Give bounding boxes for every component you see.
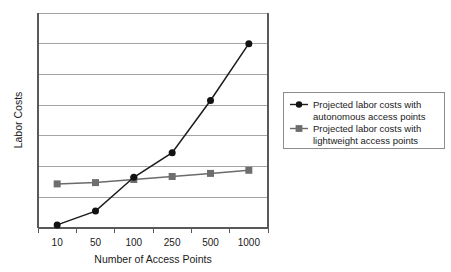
- chart-figure: 10 50 100 250 500 1000 Number of Access …: [0, 0, 451, 272]
- x-tick-label-2: 100: [125, 237, 142, 248]
- plot-area-background: [38, 13, 268, 228]
- series-autonomous-marker-2: [130, 174, 137, 181]
- legend-circle-marker-icon: [296, 101, 302, 107]
- chart-legend: Projected labor costs with autonomous ac…: [284, 93, 445, 149]
- x-tick-label-1: 50: [90, 237, 102, 248]
- x-axis-tick-labels: 10 50 100 250 500 1000: [52, 237, 261, 248]
- series-autonomous-marker-3: [169, 149, 176, 156]
- legend-label-autonomous-line1: Projected labor costs with: [313, 99, 421, 110]
- series-lightweight-marker-4: [207, 170, 214, 177]
- x-tick-label-3: 250: [164, 237, 181, 248]
- series-autonomous-marker-4: [207, 97, 214, 104]
- series-autonomous-marker-1: [92, 208, 99, 215]
- line-chart-canvas: 10 50 100 250 500 1000 Number of Access …: [0, 0, 451, 272]
- series-lightweight-marker-3: [169, 173, 176, 180]
- x-tick-label-4: 500: [202, 237, 219, 248]
- series-autonomous-marker-5: [245, 40, 252, 47]
- series-lightweight-marker-5: [245, 167, 252, 174]
- series-autonomous-marker-0: [54, 221, 61, 228]
- legend-label-lightweight-line2: lightweight access points: [313, 135, 418, 146]
- legend-square-marker-icon: [296, 125, 303, 132]
- series-lightweight-marker-1: [92, 179, 99, 186]
- x-axis-tick-marks: [38, 228, 268, 233]
- series-lightweight-marker-0: [54, 180, 61, 187]
- y-axis-title: Labor Costs: [12, 92, 24, 149]
- x-axis-title: Number of Access Points: [94, 253, 211, 265]
- legend-label-lightweight-line1: Projected labor costs with: [313, 123, 421, 134]
- x-tick-label-5: 1000: [238, 237, 261, 248]
- legend-label-autonomous-line2: autonomous access points: [313, 111, 426, 122]
- x-tick-label-0: 10: [52, 237, 64, 248]
